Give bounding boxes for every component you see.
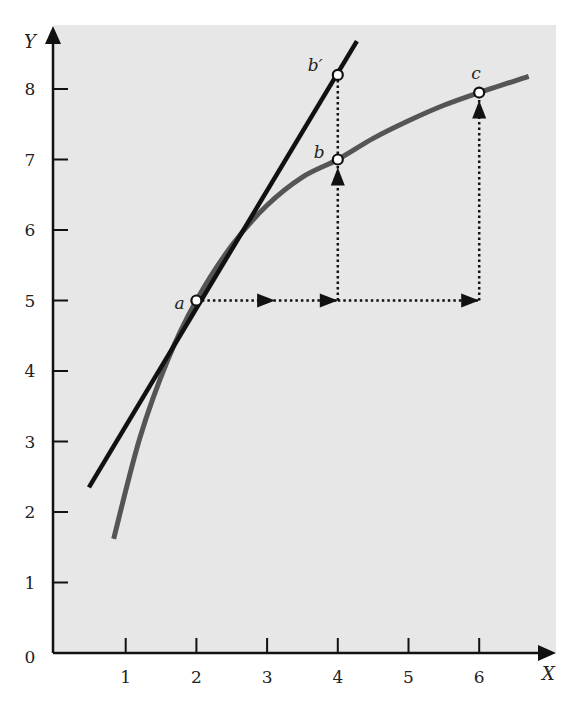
x-tick-label: 1 [120,667,131,687]
y-tick-label: 8 [25,79,36,99]
y-tick-label: 3 [25,432,36,452]
y-tick-label: 0 [25,647,36,667]
x-tick-label: 5 [403,667,414,687]
point-label: b′ [308,55,323,75]
point-label: c [471,63,481,83]
x-tick-label: 3 [262,667,273,687]
point-b [333,155,343,165]
x-tick-label: 4 [332,667,343,687]
point-label: a [174,293,184,313]
x-tick-label: 6 [474,667,485,687]
point-b-prime [333,70,343,80]
point-a [191,296,201,306]
y-tick-label: 6 [25,220,36,240]
y-tick-label: 4 [25,361,36,381]
point-label: b [314,142,325,162]
plot-background [54,25,556,653]
x-axis-label: X [540,663,556,684]
point-c [474,88,484,98]
y-tick-label: 7 [25,150,36,170]
x-tick-label: 2 [191,667,202,687]
y-tick-label: 5 [25,291,36,311]
y-tick-label: 1 [25,573,36,593]
y-tick-label: 2 [25,502,36,522]
chart: 123456012345678XY abb′c [0,0,575,706]
y-axis-label: Y [24,31,38,52]
